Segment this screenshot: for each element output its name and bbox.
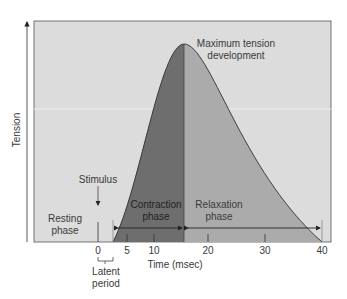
- x-tick-0: 0: [95, 245, 101, 256]
- max-tension-label: Maximum tension: [197, 38, 275, 49]
- y-axis-title: Tension: [11, 113, 22, 147]
- latent-period-bracket: [98, 257, 113, 264]
- contraction-phase-label: Contraction: [130, 199, 181, 210]
- relaxation-phase-label: Relaxation: [195, 199, 242, 210]
- latent-period-label: Latent: [92, 266, 120, 277]
- x-axis-title: Time (msec): [147, 259, 202, 270]
- x-tick-5: 5: [124, 245, 130, 256]
- stimulus-label: Stimulus: [79, 174, 117, 185]
- resting-phase-label: Resting: [48, 213, 82, 224]
- latent-period-label-2: period: [92, 278, 120, 289]
- x-tick-10: 10: [148, 245, 160, 256]
- max-tension-label-2: development: [207, 50, 264, 61]
- twitch-diagram: Maximum tension development Stimulus Res…: [0, 0, 347, 299]
- x-tick-40: 40: [316, 245, 328, 256]
- x-tick-20: 20: [202, 245, 214, 256]
- x-tick-30: 30: [259, 245, 271, 256]
- resting-phase-label-2: phase: [51, 225, 79, 236]
- relaxation-phase-label-2: phase: [205, 211, 233, 222]
- contraction-phase-label-2: phase: [142, 211, 170, 222]
